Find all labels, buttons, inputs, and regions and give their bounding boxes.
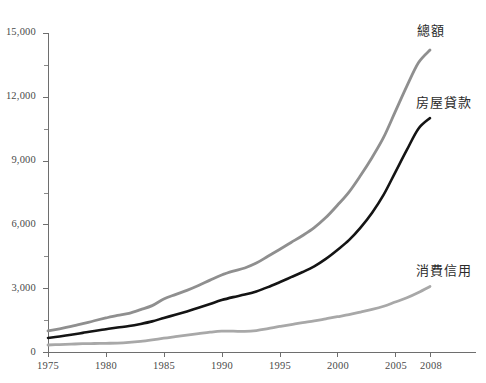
y-tick-label-12000: 12,000 [0,90,36,101]
x-tick-label-2008: 2008 [411,360,451,371]
x-tick-label-1990: 1990 [202,360,242,371]
y-tick-label-0: 0 [0,346,36,357]
line-chart-plot [0,0,486,383]
axis-group [43,33,476,357]
y-tick-label-3000: 3,000 [0,282,36,293]
y-tick-label-9000: 9,000 [0,154,36,165]
series-line-total [48,50,430,331]
series-group [48,50,430,345]
chart-container: 15,000 12,000 9,000 6,000 3,000 0 1975 1… [0,0,486,383]
x-tick-label-1975: 1975 [28,360,68,371]
x-tick-label-1995: 1995 [260,360,300,371]
y-tick-label-15000: 15,000 [0,26,36,37]
series-line-mortgage [48,118,430,338]
x-tick-label-1980: 1980 [86,360,126,371]
series-label-mortgage: 房屋貸款 [416,92,472,111]
series-label-consumer-credit: 消費信用 [416,260,472,279]
y-tick-label-6000: 6,000 [0,218,36,229]
series-label-total: 總額 [417,20,445,39]
x-tick-label-2000: 2000 [318,360,358,371]
x-tick-label-1985: 1985 [144,360,184,371]
x-tick-label-2005: 2005 [376,360,416,371]
